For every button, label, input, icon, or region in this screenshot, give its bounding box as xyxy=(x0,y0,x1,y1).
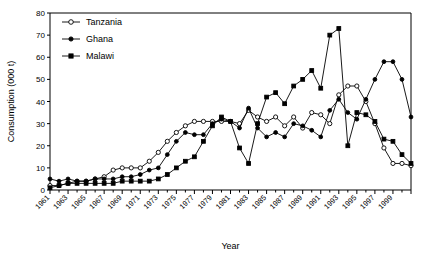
data-point-tanzania xyxy=(201,119,205,123)
data-point-tanzania xyxy=(328,122,332,126)
x-tick-label: 1973 xyxy=(142,193,160,211)
data-point-tanzania xyxy=(319,113,323,117)
data-point-ghana xyxy=(310,128,314,132)
y-tick-label: 50 xyxy=(36,75,45,84)
data-point-tanzania xyxy=(183,124,187,128)
data-point-malawi xyxy=(120,179,124,183)
data-point-tanzania xyxy=(274,115,278,119)
data-point-tanzania xyxy=(138,166,142,170)
data-point-ghana xyxy=(165,153,169,157)
data-point-ghana xyxy=(400,77,404,81)
data-point-ghana xyxy=(111,177,115,181)
data-point-tanzania xyxy=(265,119,269,123)
x-tick-label: 1993 xyxy=(322,193,340,211)
data-point-malawi xyxy=(174,166,178,170)
data-point-malawi xyxy=(211,124,215,128)
data-point-ghana xyxy=(373,77,377,81)
data-point-ghana xyxy=(337,97,341,101)
data-point-ghana xyxy=(391,60,395,64)
data-point-tanzania xyxy=(400,161,404,165)
data-point-ghana xyxy=(274,131,278,135)
data-point-ghana xyxy=(183,131,187,135)
data-point-ghana xyxy=(346,111,350,115)
data-point-malawi xyxy=(364,113,368,117)
data-point-tanzania xyxy=(120,166,124,170)
data-point-malawi xyxy=(193,155,197,159)
y-axis-title: Consumption (000 t) xyxy=(6,61,16,143)
data-point-ghana xyxy=(93,177,97,181)
data-point-malawi xyxy=(220,115,224,119)
legend-label-ghana: Ghana xyxy=(86,34,113,44)
data-point-tanzania xyxy=(129,166,133,170)
x-tick-label: 1963 xyxy=(51,193,69,211)
x-tick-label: 1995 xyxy=(340,193,358,211)
data-point-malawi xyxy=(355,111,359,115)
y-tick-label: 20 xyxy=(36,142,45,151)
x-tick-label: 1985 xyxy=(250,193,268,211)
data-point-malawi xyxy=(382,137,386,141)
data-point-tanzania xyxy=(111,168,115,172)
x-tick-label: 1989 xyxy=(286,193,304,211)
data-point-tanzania xyxy=(174,130,178,134)
data-point-malawi xyxy=(48,186,52,190)
y-tick-label: 70 xyxy=(36,31,45,40)
data-point-malawi xyxy=(84,181,88,185)
data-point-ghana xyxy=(301,124,305,128)
x-tick-label: 1969 xyxy=(105,193,123,211)
data-point-tanzania xyxy=(292,115,296,119)
x-tick-label: 1983 xyxy=(232,193,250,211)
y-tick-label: 10 xyxy=(36,164,45,173)
x-tick-label: 1997 xyxy=(358,193,376,211)
legend-marker-ghana xyxy=(69,37,73,41)
legend-label-tanzania: Tanzania xyxy=(86,17,122,27)
x-tick-label: 1981 xyxy=(214,193,232,211)
y-tick-label: 60 xyxy=(36,53,45,62)
x-tick-label: 1991 xyxy=(304,193,322,211)
data-point-malawi xyxy=(400,153,404,157)
data-point-malawi xyxy=(156,177,160,181)
data-point-malawi xyxy=(238,146,242,150)
data-point-malawi xyxy=(57,184,61,188)
x-tick-label: 1965 xyxy=(69,193,87,211)
data-point-malawi xyxy=(138,179,142,183)
data-point-ghana xyxy=(102,177,106,181)
x-tick-label: 1971 xyxy=(124,193,142,211)
data-point-malawi xyxy=(66,181,70,185)
data-point-ghana xyxy=(328,108,332,112)
y-tick-label: 80 xyxy=(36,9,45,18)
data-point-malawi xyxy=(310,69,314,73)
data-point-ghana xyxy=(138,173,142,177)
series-line-tanzania xyxy=(50,86,411,186)
data-point-ghana xyxy=(283,135,287,139)
data-point-ghana xyxy=(292,122,296,126)
data-point-malawi xyxy=(373,120,377,124)
data-point-malawi xyxy=(102,181,106,185)
data-point-ghana xyxy=(247,106,251,110)
x-tick-label: 1967 xyxy=(87,193,105,211)
data-point-ghana xyxy=(66,177,70,181)
data-point-malawi xyxy=(93,181,97,185)
data-point-ghana xyxy=(193,133,197,137)
x-tick-label: 1979 xyxy=(196,193,214,211)
data-point-tanzania xyxy=(346,84,350,88)
data-point-ghana xyxy=(202,133,206,137)
data-point-malawi xyxy=(129,179,133,183)
data-point-tanzania xyxy=(391,161,395,165)
data-point-malawi xyxy=(337,27,341,31)
x-tick-label: 1961 xyxy=(33,193,51,211)
data-point-malawi xyxy=(274,91,278,95)
data-point-ghana xyxy=(48,177,52,181)
data-point-malawi xyxy=(229,120,233,124)
data-point-malawi xyxy=(75,181,79,185)
data-point-ghana xyxy=(409,115,413,119)
legend-marker-tanzania xyxy=(69,20,74,25)
data-point-tanzania xyxy=(283,124,287,128)
data-point-malawi xyxy=(147,179,151,183)
data-point-tanzania xyxy=(156,150,160,154)
data-point-malawi xyxy=(283,102,287,106)
data-point-malawi xyxy=(319,86,323,90)
data-point-ghana xyxy=(238,126,242,130)
data-point-ghana xyxy=(147,168,151,172)
consumption-line-chart: 0102030405060708019611963196519671969197… xyxy=(0,0,425,258)
data-point-malawi xyxy=(256,122,260,126)
